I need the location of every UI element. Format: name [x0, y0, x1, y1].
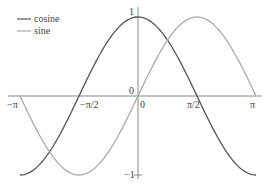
legend-label-cosine: cosine [34, 13, 60, 24]
legend-label-sine: sine [34, 25, 51, 36]
y-tick-label-origin: 0 [129, 85, 134, 96]
x-tick-label-neg-half-pi: −π/2 [80, 99, 98, 110]
x-tick-label-half-pi: π/2 [187, 99, 200, 110]
x-tick-label-pi: π [250, 99, 255, 110]
y-tick-label-neg-one: −1 [124, 169, 135, 180]
x-tick-label-neg-pi: −π [7, 99, 18, 110]
legend: cosine sine [17, 13, 60, 36]
y-tick-label-one: 1 [129, 6, 134, 17]
chart: −π −π/2 0 π/2 π 1 0 −1 cosine sine [0, 0, 273, 187]
x-tick-label-zero: 0 [140, 99, 145, 110]
